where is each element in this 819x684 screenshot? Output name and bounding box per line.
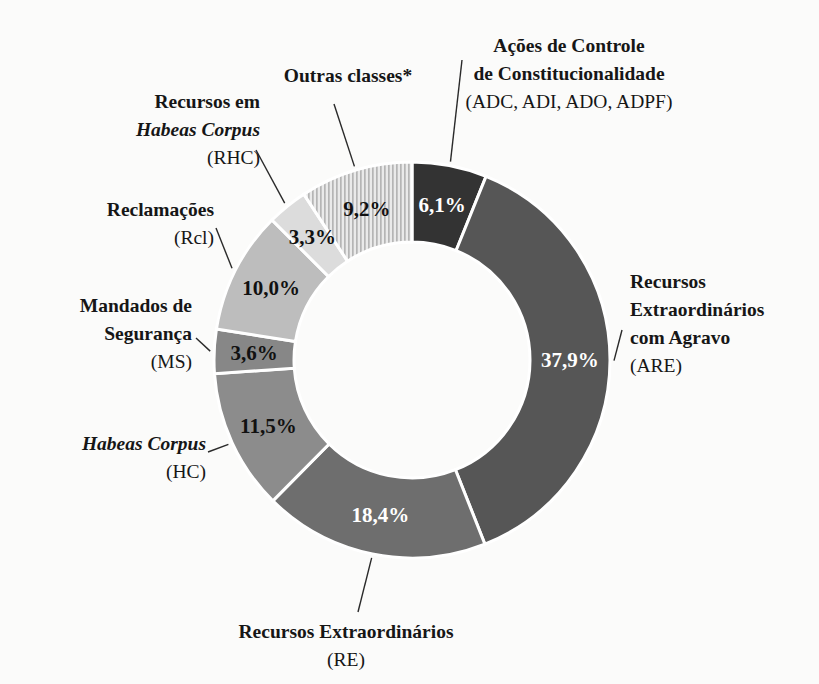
leader-line (358, 558, 372, 612)
callout-recursos-em-habeas-corpus: Recursos em Habeas Corpus (RHC) (70, 88, 260, 172)
callout-outras-classes: Outras classes* (248, 62, 448, 90)
callout-line: Recursos em (70, 88, 260, 116)
callout-code: (HC) (0, 458, 206, 486)
callout-mandados-de-seguranca: Mandados de Segurança (MS) (0, 292, 192, 376)
callout-acoes-de-controle: Ações de Controle de Constitucionalidade… (452, 32, 686, 116)
slice-percent-label: 6,1% (418, 193, 465, 217)
callout-code: (MS) (0, 348, 192, 376)
callout-code: (ARE) (630, 352, 819, 380)
slice-percent-label: 37,9% (541, 348, 599, 372)
callout-recursos-extraordinarios-com-agravo: Recursos Extraordinários com Agravo (ARE… (630, 268, 819, 380)
slice-percent-label: 10,0% (242, 276, 300, 300)
leader-line (216, 228, 232, 268)
leader-line (614, 330, 622, 361)
callout-line: Reclamações (14, 196, 214, 224)
callout-line: Ações de Controle (452, 32, 686, 60)
callout-code: (RE) (168, 646, 524, 674)
slice-percent-label: 3,6% (231, 341, 278, 365)
callout-line: Segurança (0, 320, 192, 348)
callout-line: Habeas Corpus (0, 430, 206, 458)
leader-line (334, 104, 354, 166)
callout-line: Extraordinários (630, 296, 819, 324)
callout-code: (Rcl) (14, 224, 214, 252)
chart-page: 6,1%37,9%18,4%11,5%3,6%10,0%3,3%9,2% Açõ… (0, 0, 819, 684)
callout-code: (RHC) (70, 144, 260, 172)
slice-percent-label: 11,5% (240, 414, 297, 438)
callout-line: Mandados de (0, 292, 192, 320)
callout-line: Habeas Corpus (70, 116, 260, 144)
leader-line (256, 150, 285, 203)
callout-recursos-extraordinarios: Recursos Extraordinários (RE) (168, 618, 524, 674)
callout-line: Outras classes* (248, 62, 448, 90)
callout-habeas-corpus: Habeas Corpus (HC) (0, 430, 206, 486)
callout-reclamacoes: Reclamações (Rcl) (14, 196, 214, 252)
leader-line (208, 444, 228, 452)
leader-line (196, 338, 210, 351)
callout-line: Recursos Extraordinários (168, 618, 524, 646)
slice-percent-label: 9,2% (343, 197, 390, 221)
callout-code: (ADC, ADI, ADO, ADPF) (452, 88, 686, 116)
slice-percent-label: 18,4% (352, 503, 410, 527)
callout-line: com Agravo (630, 324, 819, 352)
callout-line: de Constitucionalidade (452, 60, 686, 88)
slice-percent-label: 3,3% (289, 225, 336, 249)
callout-line: Recursos (630, 268, 819, 296)
